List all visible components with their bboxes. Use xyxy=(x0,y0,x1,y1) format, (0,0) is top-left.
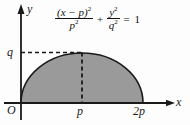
equation-left-numerator-text: (x − p) xyxy=(57,6,88,18)
equation-right-denominator: q2 xyxy=(107,19,120,31)
equation-right-numerator-exponent: 2 xyxy=(114,5,118,13)
x-axis-arrow xyxy=(166,100,175,107)
y-tick-label-q: q xyxy=(7,46,13,58)
equation-left-denominator: p2 xyxy=(55,19,93,31)
equation-right-denominator-exponent: 2 xyxy=(114,18,118,26)
equation-equals-sign: = xyxy=(123,13,131,25)
equation-left-numerator: (x − p)2 xyxy=(55,6,93,19)
x-tick-label-p: p xyxy=(77,105,83,117)
equation-left-fraction: (x − p)2 p2 xyxy=(55,6,93,31)
y-axis-arrow xyxy=(18,4,25,14)
equation-operator: + xyxy=(96,13,104,25)
x-tick-label-2p: 2p xyxy=(133,105,145,117)
x-axis-label: x xyxy=(176,96,181,108)
equation-right-numerator: y2 xyxy=(107,6,120,19)
equation-result: 1 xyxy=(134,13,142,25)
equation-right-fraction: y2 q2 xyxy=(107,6,120,31)
equation-left-numerator-exponent: 2 xyxy=(88,5,92,13)
origin-label: O xyxy=(7,104,16,116)
y-axis-label: y xyxy=(27,3,32,15)
equation-left-denominator-exponent: 2 xyxy=(75,18,79,26)
ellipse-equation: (x − p)2 p2 + y2 q2 = 1 xyxy=(55,6,141,31)
